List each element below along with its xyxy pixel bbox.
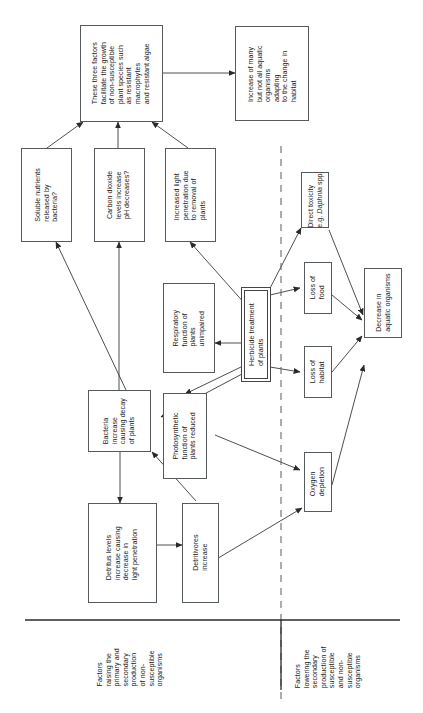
edge-oxygen-decrease bbox=[332, 365, 364, 485]
node-loss-of-habitat-label: Loss of habitat bbox=[309, 360, 326, 383]
edge-light-threefactors bbox=[152, 122, 188, 148]
node-detritus-levels-label: Detritus levels increase causing decreas… bbox=[105, 526, 139, 580]
node-increased-light[interactable]: Increased light penetration due to remov… bbox=[165, 148, 216, 242]
diagram-canvas: These three factors facilitate the growt… bbox=[0, 0, 423, 713]
node-bacteria-increase-label: Bacteria increase causing decay of plant… bbox=[102, 398, 136, 444]
caption-right: Factors lowering the secondary productio… bbox=[290, 630, 368, 705]
node-detritivores-increase-label: Detritivores increase bbox=[192, 535, 209, 571]
node-direct-toxicity[interactable]: Direct toxicitye.g. Daphnia spp. bbox=[301, 172, 329, 228]
edge-food-decrease bbox=[332, 295, 362, 320]
node-three-factors-label: These three factors facilitate the growt… bbox=[91, 42, 151, 104]
edge-herbicide-habitat bbox=[270, 367, 300, 372]
node-herbicide-treatment[interactable]: Herbicide treatment of plants bbox=[241, 287, 271, 382]
node-respiratory-function-label: Respiratory function of plants unimpaire… bbox=[172, 310, 206, 347]
node-bacteria-increase[interactable]: Bacteria increase causing decay of plant… bbox=[88, 390, 151, 452]
caption-left: Factors raising the primary and secondar… bbox=[93, 630, 168, 705]
node-increase-aquatic-label: Increase of many but not all aquatic org… bbox=[246, 45, 298, 102]
caption-right-label: Factors lowering the secondary productio… bbox=[295, 647, 364, 689]
node-increased-light-label: Increased light penetration due to remov… bbox=[173, 170, 207, 220]
node-carbon-dioxide[interactable]: Carbon dioxide levels increase pH decrea… bbox=[94, 148, 145, 242]
node-direct-toxicity-line2-pre: e.g. bbox=[315, 214, 323, 228]
node-oxygen-depletion-label: Oxygen depletion bbox=[309, 467, 326, 496]
node-detritivores-increase[interactable]: Detritivores increase bbox=[182, 503, 219, 603]
node-respiratory-function[interactable]: Respiratory function of plants unimpaire… bbox=[163, 283, 215, 373]
node-direct-toxicity-genus: Daphnia bbox=[315, 187, 323, 214]
node-carbon-dioxide-label: Carbon dioxide levels increase pH decrea… bbox=[107, 171, 133, 219]
node-loss-of-food[interactable]: Loss of food bbox=[304, 262, 332, 314]
edge-habitat-decrease bbox=[332, 336, 362, 372]
edge-toxicity-decrease bbox=[329, 230, 363, 315]
node-oxygen-depletion[interactable]: Oxygen depletion bbox=[304, 452, 332, 512]
node-loss-of-habitat[interactable]: Loss of habitat bbox=[304, 346, 332, 398]
edge-herbicide-toxicity bbox=[266, 228, 301, 296]
node-increase-aquatic[interactable]: Increase of many but not all aquatic org… bbox=[235, 26, 309, 121]
node-decrease-aquatic-label: Decrease in aquatic organisms bbox=[374, 274, 391, 332]
node-detritus-levels[interactable]: Detritus levels increase causing decreas… bbox=[88, 503, 157, 603]
edge-soluble-threefactors bbox=[47, 122, 83, 148]
edge-bacteria-soluble bbox=[56, 242, 126, 390]
node-direct-toxicity-label: Direct toxicitye.g. Daphnia spp. bbox=[306, 172, 323, 228]
node-soluble-nutrients-label: Soluble nutrients released by bacteria? bbox=[34, 168, 60, 222]
node-three-factors[interactable]: These three factors facilitate the growt… bbox=[80, 25, 163, 122]
edge-detritivores-oxygen bbox=[215, 508, 302, 560]
edge-herbicide-food bbox=[270, 288, 300, 295]
node-photosynthetic-function-label: Photosynthetic function of plants reduce… bbox=[172, 412, 198, 459]
node-decrease-aquatic[interactable]: Decrease in aquatic organisms bbox=[364, 268, 402, 338]
node-soluble-nutrients[interactable]: Soluble nutrients released by bacteria? bbox=[21, 148, 72, 242]
node-photosynthetic-function[interactable]: Photosynthetic function of plants reduce… bbox=[163, 393, 207, 479]
node-direct-toxicity-line1: Direct toxicity bbox=[306, 185, 314, 228]
caption-left-label: Factors raising the primary and secondar… bbox=[96, 648, 165, 686]
node-direct-toxicity-line2-post: spp. bbox=[315, 172, 323, 188]
node-loss-of-food-label: Loss of food bbox=[309, 276, 326, 299]
node-herbicide-treatment-label: Herbicide treatment of plants bbox=[247, 303, 264, 366]
edge-photosynthetic-oxygen bbox=[215, 435, 300, 470]
